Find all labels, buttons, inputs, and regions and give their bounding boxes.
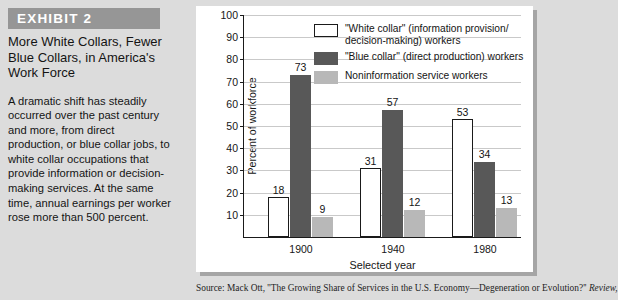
- y-tick-mark: [240, 104, 244, 105]
- x-tick-label: 1900: [289, 243, 312, 255]
- y-tick-mark: [240, 215, 244, 216]
- exhibit-title: More White Collars, Fewer Blue Collars, …: [8, 34, 176, 81]
- y-tick-mark: [240, 170, 244, 171]
- x-tick-label: 1940: [381, 243, 404, 255]
- legend-label: "Blue collar" (direct production) worker…: [345, 51, 523, 63]
- bar-value-label: 18: [273, 184, 285, 196]
- bar: 57: [382, 110, 403, 237]
- bar-value-label: 12: [409, 196, 421, 208]
- y-tick-mark: [240, 126, 244, 127]
- x-axis-title: Selected year: [349, 259, 415, 271]
- chart-panel: Percent of workforce 1020304050607080901…: [196, 6, 533, 272]
- bar: 34: [474, 162, 495, 237]
- y-tick-mark: [240, 148, 244, 149]
- chart-legend: "White collar" (information provision/ d…: [314, 23, 524, 89]
- y-tick-label: 40: [226, 142, 238, 154]
- bar: 18: [268, 197, 289, 237]
- y-tick-mark: [240, 59, 244, 60]
- bar-value-label: 57: [387, 96, 399, 108]
- y-tick-label: 80: [226, 53, 238, 65]
- source-prefix: Source: Mack Ott, ''The Growing Share of…: [196, 283, 589, 293]
- source-publication: Review,: [589, 283, 618, 293]
- y-tick-label: 30: [226, 164, 238, 176]
- bar: 53: [452, 119, 473, 237]
- y-tick-label: 20: [226, 187, 238, 199]
- legend-item: "Blue collar" (direct production) worker…: [314, 51, 524, 65]
- x-tick-label: 1980: [473, 243, 496, 255]
- y-tick-label: 90: [226, 31, 238, 43]
- y-tick-label: 50: [226, 120, 238, 132]
- exhibit-body-text: A dramatic shift has steadily occurred o…: [8, 94, 171, 225]
- bar-value-label: 9: [320, 203, 326, 215]
- exhibit-banner: EXHIBIT 2: [8, 8, 160, 29]
- legend-label: "White collar" (information provision/ d…: [345, 23, 524, 46]
- y-tick-label: 10: [226, 209, 238, 221]
- bar-value-label: 34: [479, 148, 491, 160]
- bar: 9: [312, 217, 333, 237]
- legend-swatch-blue-collar: [314, 52, 338, 65]
- y-tick-label: 100: [220, 9, 238, 21]
- y-tick-label: 70: [226, 76, 238, 88]
- bar: 73: [290, 75, 311, 237]
- bar-value-label: 13: [501, 194, 513, 206]
- y-tick-label: 60: [226, 98, 238, 110]
- y-tick-mark: [240, 82, 244, 83]
- legend-swatch-white-collar: [314, 24, 338, 37]
- bar-value-label: 73: [295, 61, 307, 73]
- bar-value-label: 31: [365, 155, 377, 167]
- legend-item: "White collar" (information provision/ d…: [314, 23, 524, 46]
- exhibit-text-column: EXHIBIT 2 More White Collars, Fewer Blue…: [8, 8, 176, 292]
- source-note: Source: Mack Ott, ''The Growing Share of…: [196, 283, 590, 293]
- bar: 31: [360, 168, 381, 237]
- legend-item: Noninformation service workers: [314, 70, 524, 84]
- y-tick-mark: [240, 15, 244, 16]
- y-tick-mark: [240, 37, 244, 38]
- legend-label: Noninformation service workers: [345, 70, 488, 82]
- y-tick-mark: [240, 193, 244, 194]
- exhibit-banner-label: EXHIBIT 2: [17, 11, 92, 26]
- bar-value-label: 53: [457, 106, 469, 118]
- bar: 12: [404, 210, 425, 237]
- bar: 13: [496, 208, 517, 237]
- legend-swatch-noninfo: [314, 71, 338, 84]
